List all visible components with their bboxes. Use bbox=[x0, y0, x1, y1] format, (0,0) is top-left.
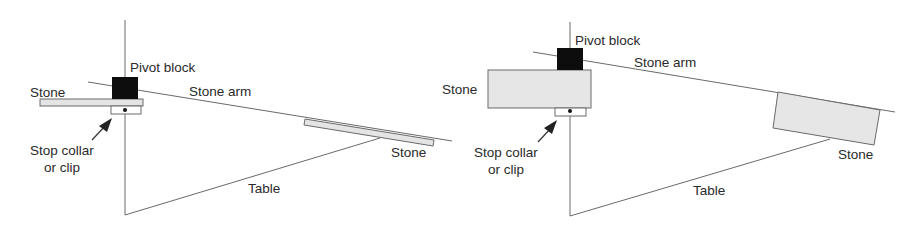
label-table: Table bbox=[248, 181, 280, 196]
label-stop-collar: Stop collar bbox=[30, 143, 94, 158]
label-stone-left: Stone bbox=[442, 82, 477, 97]
label-table: Table bbox=[693, 183, 725, 198]
label-or-clip: or clip bbox=[488, 162, 524, 177]
sharpening-jig-diagram: Pivot block Stone Stone arm Stone Stop c… bbox=[0, 0, 920, 226]
pivot-point bbox=[568, 109, 572, 113]
label-stone-arm: Stone arm bbox=[189, 84, 251, 99]
label-stone-right: Stone bbox=[391, 145, 426, 160]
stone-left bbox=[40, 99, 143, 106]
table-line bbox=[125, 138, 380, 215]
pivot-block bbox=[112, 77, 138, 99]
panel-thick-stone: Pivot block Stone Stone arm Stone Stop c… bbox=[442, 22, 895, 216]
label-or-clip: or clip bbox=[44, 160, 80, 175]
stone-right bbox=[773, 92, 880, 145]
label-stone-arm: Stone arm bbox=[634, 55, 696, 70]
label-pivot-block: Pivot block bbox=[130, 60, 196, 75]
label-pivot-block: Pivot block bbox=[575, 33, 641, 48]
panel-thin-stone: Pivot block Stone Stone arm Stone Stop c… bbox=[30, 20, 452, 215]
table-line bbox=[570, 139, 830, 216]
label-stone-right: Stone bbox=[838, 147, 873, 162]
stone-left bbox=[488, 70, 591, 108]
stone-arm bbox=[88, 82, 452, 141]
arrow-icon bbox=[544, 120, 557, 134]
pivot-block bbox=[557, 48, 583, 70]
pivot-point bbox=[123, 108, 127, 112]
label-stone-left: Stone bbox=[30, 85, 65, 100]
label-stop-collar: Stop collar bbox=[474, 145, 538, 160]
stone-right bbox=[304, 119, 434, 146]
